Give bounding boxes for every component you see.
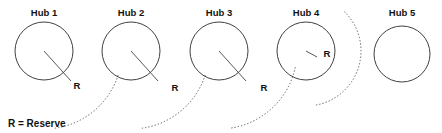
reserve-marker-2: R [172, 82, 179, 93]
hub-label-5: Hub 5 [389, 7, 416, 18]
hub-label-3: Hub 3 [206, 7, 232, 18]
hub-label-2: Hub 2 [118, 7, 144, 18]
reserve-marker-1: R [74, 80, 81, 91]
reserve-arc-3 [230, 67, 295, 128]
radius-indicators-group [44, 51, 317, 81]
hub-label-1: Hub 1 [31, 7, 58, 18]
reserve-arc-4 [316, 11, 361, 105]
reserve-marker-3: R [261, 82, 268, 93]
legend-reserve-definition: R = Reserve [8, 118, 66, 129]
hub-circles-group [15, 22, 430, 82]
reserve-marker-4: R [324, 48, 331, 59]
reserve-arcs-group [55, 11, 361, 128]
hub-label-4: Hub 4 [293, 7, 320, 18]
hub-circle-5 [374, 26, 430, 82]
diagram-canvas: Hub 1Hub 2Hub 3Hub 4Hub 5 RRRR R = Reser… [0, 0, 442, 133]
hub-reserve-diagram: Hub 1Hub 2Hub 3Hub 4Hub 5 RRRR R = Reser… [0, 0, 442, 133]
radius-indicator-4 [306, 51, 317, 57]
hub-labels-group: Hub 1Hub 2Hub 3Hub 4Hub 5 [31, 7, 416, 18]
reserve-markers-group: RRRR [74, 48, 331, 93]
